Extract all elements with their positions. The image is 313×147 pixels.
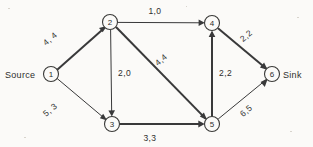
- edge-1-to-2: [57, 26, 106, 70]
- edge-1-to-3: [57, 78, 107, 120]
- node-4[interactable]: 4: [205, 16, 220, 31]
- edge-label-2-5: 4,4: [153, 52, 169, 68]
- edge-5-to-4: [209, 31, 216, 117]
- edge-2-to-4: [118, 20, 205, 27]
- node-1-label: 1: [49, 70, 54, 79]
- edge-label-1-3: 5, 3: [41, 101, 60, 119]
- edge-label-2-4: 1,0: [148, 6, 161, 16]
- node-5-label: 5: [210, 120, 215, 129]
- edge-label-4-6: 2,2: [238, 28, 254, 44]
- flow-diagram-page: 4, 4 5, 3 1,0 2,0 4,4 3,3 2,2 2,2 6,5 1 …: [0, 0, 313, 147]
- edge-label-3-5: 3,3: [143, 133, 156, 143]
- edge-label-5-4: 2,2: [219, 68, 232, 78]
- node-1[interactable]: 1: [44, 67, 59, 82]
- node-6[interactable]: 6: [265, 67, 280, 82]
- node-4-label: 4: [210, 19, 215, 28]
- node-3[interactable]: 3: [105, 117, 120, 132]
- edge-label-1-2: 4, 4: [41, 30, 60, 48]
- edge-label-2-3: 2,0: [118, 68, 131, 78]
- network-flow-graph: 4, 4 5, 3 1,0 2,0 4,4 3,3 2,2 2,2 6,5 1 …: [0, 0, 313, 147]
- edge-2-to-3: [108, 30, 115, 117]
- node-2[interactable]: 2: [103, 15, 118, 30]
- edge-3-to-5: [120, 121, 205, 128]
- source-label: Source: [5, 70, 35, 80]
- node-5[interactable]: 5: [205, 117, 220, 132]
- sink-label: Sink: [283, 70, 302, 80]
- node-2-label: 2: [108, 18, 113, 27]
- edge-label-5-6: 6,5: [238, 103, 254, 119]
- node-3-label: 3: [110, 120, 115, 129]
- node-6-label: 6: [270, 70, 275, 79]
